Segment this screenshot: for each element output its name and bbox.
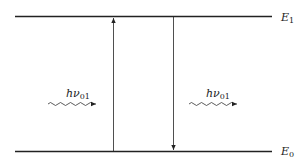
- outgoing-photon-wave: [189, 103, 237, 106]
- energy-level-diagram: [0, 0, 301, 166]
- photon-subscript: 01: [220, 92, 230, 101]
- level-symbol: E: [281, 11, 289, 24]
- energy-level-e0-label: E0: [281, 146, 294, 159]
- photon-subscript: 01: [80, 92, 90, 101]
- incoming-photon-label: hν01: [66, 88, 90, 101]
- level-symbol: E: [281, 145, 289, 158]
- photon-energy-symbol: hν: [206, 87, 220, 100]
- level-subscript: 0: [289, 150, 294, 159]
- energy-level-e1-label: E1: [281, 12, 294, 25]
- level-subscript: 1: [289, 16, 294, 25]
- incoming-photon-wave: [48, 103, 96, 106]
- outgoing-photon-label: hν01: [206, 88, 230, 101]
- photon-energy-symbol: hν: [66, 87, 80, 100]
